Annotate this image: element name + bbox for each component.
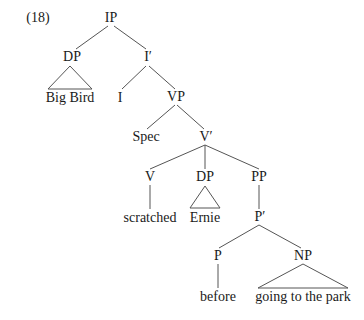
node-dp-subject: DP xyxy=(63,50,81,64)
node-v-bar: V′ xyxy=(199,130,212,144)
node-i-bar: I′ xyxy=(144,50,152,64)
node-pp: PP xyxy=(251,170,267,184)
node-v: V xyxy=(145,170,155,184)
node-spec: Spec xyxy=(132,130,159,144)
node-dp-object: DP xyxy=(196,170,214,184)
node-i: I xyxy=(118,91,123,105)
leaf-scratched: scratched xyxy=(124,211,177,225)
node-p-bar: P′ xyxy=(255,210,266,224)
tree-branches xyxy=(0,0,364,320)
leaf-big-bird: Big Bird xyxy=(46,91,95,105)
node-ip: IP xyxy=(105,11,117,25)
node-p: P xyxy=(214,249,222,263)
node-np: NP xyxy=(294,249,312,263)
node-vp: VP xyxy=(167,90,185,104)
leaf-going-to-the-park: going to the park xyxy=(255,290,350,304)
leaf-before: before xyxy=(200,290,236,304)
example-number: (18) xyxy=(26,11,49,25)
leaf-ernie: Ernie xyxy=(190,211,220,225)
